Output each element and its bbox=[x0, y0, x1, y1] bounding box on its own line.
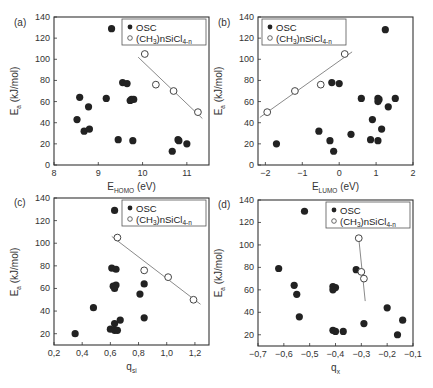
y-tick-label: 20 bbox=[244, 330, 254, 340]
legend: OSC(CH3)nSiCl4-n bbox=[122, 200, 206, 226]
y-tick-label: 40 bbox=[244, 118, 254, 128]
legend-silane-marker bbox=[268, 36, 273, 41]
x-axis-label: ELUMO (eV) bbox=[312, 181, 359, 194]
osc-point bbox=[326, 137, 333, 144]
osc-point bbox=[183, 140, 190, 147]
y-tick-label: 140 bbox=[239, 195, 254, 205]
osc-point bbox=[296, 313, 303, 320]
osc-point bbox=[111, 285, 118, 292]
y-tick-label: 60 bbox=[244, 97, 254, 107]
legend-silane-marker bbox=[128, 36, 133, 41]
silane-point bbox=[264, 109, 271, 116]
legend: OSC(CH3)nSiCl4-n bbox=[262, 19, 346, 45]
osc-point bbox=[86, 125, 93, 132]
panel-label: (d) bbox=[218, 199, 230, 210]
x-axis-label: qx bbox=[331, 362, 341, 375]
osc-point bbox=[129, 137, 136, 144]
osc-point bbox=[378, 125, 385, 132]
panel-c: 204060801001201400,20,40,60,81,01,2qsiEa… bbox=[9, 193, 209, 374]
legend-osc-marker bbox=[128, 206, 133, 211]
osc-point bbox=[367, 136, 374, 143]
osc-point bbox=[112, 266, 119, 273]
y-tick-label: 120 bbox=[239, 33, 254, 43]
x-tick-label: 2 bbox=[410, 168, 415, 178]
osc-point bbox=[108, 25, 115, 32]
y-tick-label: 20 bbox=[40, 329, 50, 339]
osc-point bbox=[73, 116, 80, 123]
y-tick-label: 60 bbox=[40, 283, 50, 293]
y-tick-label: 100 bbox=[239, 240, 254, 250]
silane-point bbox=[165, 274, 172, 281]
silane-point bbox=[361, 275, 368, 282]
y-tick-label: 0 bbox=[45, 160, 50, 170]
y-tick-label: 140 bbox=[35, 193, 50, 203]
osc-point bbox=[291, 282, 298, 289]
x-axis-label: EHOMO (eV) bbox=[107, 181, 156, 194]
x-tick-label: 1 bbox=[374, 168, 379, 178]
y-tick-label: 80 bbox=[244, 75, 254, 85]
x-axis-label: qsi bbox=[126, 361, 136, 374]
osc-point bbox=[114, 327, 121, 334]
osc-point bbox=[293, 291, 300, 298]
legend-osc-marker bbox=[332, 208, 337, 213]
y-tick-label: 80 bbox=[40, 261, 50, 271]
x-tick-label: 0,8 bbox=[132, 348, 145, 358]
silane-point bbox=[114, 234, 121, 241]
silane-point bbox=[317, 81, 324, 88]
legend-silane-marker bbox=[332, 219, 337, 224]
x-tick-label: −2 bbox=[260, 168, 270, 178]
x-tick-label: −0,3 bbox=[352, 349, 370, 359]
silane-point bbox=[190, 296, 197, 303]
osc-point bbox=[332, 328, 339, 335]
y-tick-label: 60 bbox=[40, 97, 50, 107]
osc-point bbox=[72, 330, 79, 337]
x-tick-label: 0,2 bbox=[48, 348, 61, 358]
osc-point bbox=[382, 26, 389, 33]
fit-line bbox=[138, 57, 202, 118]
silane-point bbox=[355, 235, 362, 242]
y-tick-label: 60 bbox=[244, 285, 254, 295]
panel-label: (a) bbox=[14, 17, 26, 28]
legend-osc-marker bbox=[268, 25, 273, 30]
silane-point bbox=[358, 268, 365, 275]
silane-point bbox=[152, 81, 159, 88]
legend-silane-marker bbox=[128, 217, 133, 222]
osc-point bbox=[275, 265, 282, 272]
osc-point bbox=[360, 320, 367, 327]
y-tick-label: 140 bbox=[35, 12, 50, 22]
osc-point bbox=[347, 131, 354, 138]
osc-point bbox=[90, 304, 97, 311]
y-tick-label: 120 bbox=[35, 33, 50, 43]
figure: 020406080100120140891011EHOMO (eV)Ea (kJ… bbox=[0, 0, 433, 388]
y-tick-label: 40 bbox=[40, 118, 50, 128]
silane-point bbox=[141, 51, 148, 58]
osc-point bbox=[328, 79, 335, 86]
panel-d: 20406080100120140−0,7−0,6−0,5−0,4−0,3−0,… bbox=[213, 195, 422, 375]
fit-line bbox=[112, 236, 201, 304]
x-tick-label: −1 bbox=[297, 168, 307, 178]
osc-point bbox=[394, 331, 401, 338]
osc-point bbox=[136, 291, 143, 298]
y-tick-label: 80 bbox=[40, 75, 50, 85]
y-tick-label: 100 bbox=[239, 54, 254, 64]
panel-label: (b) bbox=[218, 17, 230, 28]
osc-point bbox=[315, 128, 322, 135]
panel-b: 020406080100120140−2−1012ELUMO (eV)Ea (k… bbox=[213, 12, 416, 194]
osc-point bbox=[329, 286, 336, 293]
osc-point bbox=[111, 207, 118, 214]
osc-point bbox=[358, 95, 365, 102]
y-tick-label: 100 bbox=[35, 238, 50, 248]
osc-point bbox=[369, 116, 376, 123]
osc-point bbox=[76, 94, 83, 101]
legend-osc-label: OSC bbox=[276, 22, 297, 33]
silane-point bbox=[170, 88, 177, 95]
osc-point bbox=[340, 328, 347, 335]
panel-label: (c) bbox=[14, 197, 26, 208]
x-tick-label: −0,7 bbox=[249, 349, 267, 359]
osc-point bbox=[103, 95, 110, 102]
y-tick-label: 0 bbox=[249, 160, 254, 170]
legend-osc-label: OSC bbox=[340, 205, 361, 216]
silane-point bbox=[292, 88, 299, 95]
osc-point bbox=[141, 314, 148, 321]
x-tick-label: 0,4 bbox=[76, 348, 89, 358]
